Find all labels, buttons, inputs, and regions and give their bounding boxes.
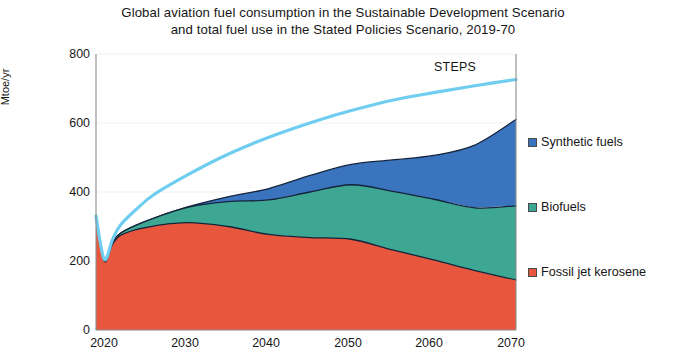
stacked-areas — [96, 120, 516, 330]
legend-item-fossil-jet-kerosene[interactable]: Fossil jet kerosene — [528, 265, 646, 279]
x-tick-2030: 2030 — [155, 336, 215, 350]
legend-swatch-synthetic-fuels — [528, 138, 537, 147]
x-tick-2020: 2020 — [74, 336, 134, 350]
y-axis-ticks: 800 600 400 200 0 — [42, 0, 90, 356]
y-tick-600: 600 — [46, 116, 90, 130]
x-tick-2050: 2050 — [318, 336, 378, 350]
aviation-fuel-area-chart: Global aviation fuel consumption in the … — [0, 0, 686, 356]
y-tick-800: 800 — [46, 47, 90, 61]
legend-label-synthetic-fuels: Synthetic fuels — [541, 135, 623, 149]
legend-item-biofuels[interactable]: Biofuels — [528, 200, 586, 214]
legend-label-fossil-jet-kerosene: Fossil jet kerosene — [541, 265, 646, 279]
chart-title-line-1: Global aviation fuel consumption in the … — [121, 5, 564, 20]
x-tick-2060: 2060 — [399, 336, 459, 350]
y-tick-0: 0 — [46, 323, 90, 337]
x-tick-2040: 2040 — [236, 336, 296, 350]
y-tick-400: 400 — [46, 185, 90, 199]
legend-label-biofuels: Biofuels — [541, 200, 586, 214]
y-axis-label: Mtoe/yr — [0, 52, 11, 122]
steps-annotation-label: STEPS — [434, 60, 476, 74]
legend-item-synthetic-fuels[interactable]: Synthetic fuels — [528, 135, 623, 149]
legend-swatch-biofuels — [528, 203, 537, 212]
y-tick-200: 200 — [46, 254, 90, 268]
chart-legend: Synthetic fuels Biofuels Fossil jet kero… — [528, 0, 686, 356]
legend-swatch-fossil-jet-kerosene — [528, 268, 537, 277]
